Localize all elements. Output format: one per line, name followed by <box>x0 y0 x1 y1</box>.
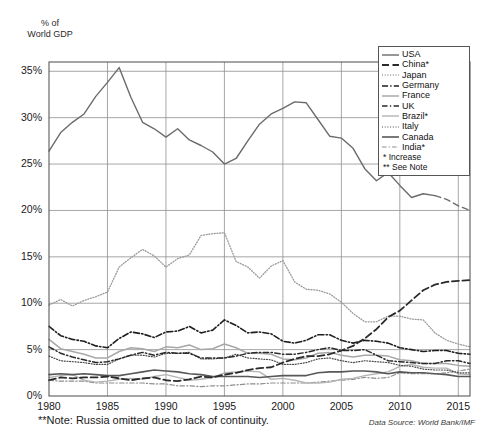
legend-swatch-icon <box>382 101 399 110</box>
legend-swatch-icon <box>382 70 399 79</box>
x-tick-label: 1990 <box>143 400 189 412</box>
legend-item-canada[interactable]: Canada <box>379 131 469 141</box>
y-tick-label: 10% <box>2 296 42 308</box>
legend-label: Canada <box>402 132 434 142</box>
series-line-brazil <box>49 364 470 383</box>
series-line-canada <box>49 370 470 377</box>
x-tick-label: 2000 <box>260 400 306 412</box>
x-tick-label: 2015 <box>435 400 481 412</box>
legend-swatch-icon <box>382 50 399 59</box>
y-axis-title: % of World GDP <box>14 18 86 40</box>
chart-legend[interactable]: USAChina*JapanGermanyFranceUKBrazil*Ital… <box>378 46 470 176</box>
legend-item-germany[interactable]: Germany <box>379 80 469 90</box>
series-line-usa-projection <box>435 196 470 211</box>
series-line-japan <box>49 233 470 347</box>
legend-label: Italy <box>402 121 419 131</box>
series-line-germany <box>49 320 470 354</box>
legend-swatch-icon <box>382 132 399 141</box>
legend-item-china[interactable]: China* <box>379 59 469 69</box>
y-tick-label: 5% <box>2 343 42 355</box>
legend-item-brazil[interactable]: Brazil* <box>379 111 469 121</box>
legend-footnote: ** See Note <box>379 162 469 172</box>
y-tick-label: 15% <box>2 250 42 262</box>
x-tick-label: 1980 <box>26 400 72 412</box>
legend-item-france[interactable]: France <box>379 90 469 100</box>
x-tick-label: 2005 <box>318 400 364 412</box>
legend-footnote: * Increase <box>379 152 469 162</box>
legend-label: Brazil* <box>402 111 428 121</box>
data-source-label: Data Source: World Bank/IMF <box>369 418 475 427</box>
footnote-russia: **Note: Russia omitted due to lack of co… <box>38 414 269 426</box>
legend-item-uk[interactable]: UK <box>379 100 469 110</box>
legend-swatch-icon <box>382 91 399 100</box>
legend-swatch-icon <box>382 81 399 90</box>
legend-label: Germany <box>402 80 439 90</box>
legend-swatch-icon <box>382 60 399 69</box>
legend-item-india[interactable]: India* <box>379 142 469 152</box>
legend-label: India* <box>402 142 425 152</box>
legend-label: Japan <box>402 70 427 80</box>
legend-label: USA <box>402 49 421 59</box>
legend-label: China* <box>402 59 429 69</box>
chart-figure: % of World GDP 0%5%10%15%20%25%30%35% 19… <box>0 0 483 447</box>
legend-swatch-icon <box>382 111 399 120</box>
y-tick-label: 20% <box>2 203 42 215</box>
legend-swatch-icon <box>382 142 399 151</box>
legend-label: France <box>402 90 430 100</box>
legend-item-usa[interactable]: USA <box>379 49 469 59</box>
legend-item-japan[interactable]: Japan <box>379 70 469 80</box>
legend-item-italy[interactable]: Italy <box>379 121 469 131</box>
y-tick-label: 35% <box>2 64 42 76</box>
x-tick-label: 1995 <box>201 400 247 412</box>
x-tick-label: 2010 <box>377 400 423 412</box>
y-tick-label: 30% <box>2 111 42 123</box>
x-tick-label: 1985 <box>84 400 130 412</box>
legend-label: UK <box>402 101 415 111</box>
legend-swatch-icon <box>382 122 399 131</box>
y-tick-label: 25% <box>2 157 42 169</box>
